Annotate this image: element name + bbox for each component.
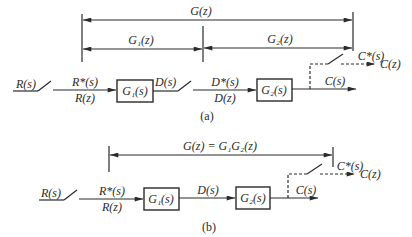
span-label-left: G₁(z) bbox=[128, 33, 154, 47]
span-label-total: G(z) bbox=[190, 4, 211, 18]
caption-a: (a) bbox=[200, 109, 213, 123]
caption-b: (b) bbox=[202, 220, 216, 234]
z-output-label-b: C(z) bbox=[360, 167, 381, 181]
block1-output-label: D(s) bbox=[154, 75, 176, 89]
output-label-b: C(s) bbox=[296, 183, 317, 197]
block-g1-label-b: G₁(s) bbox=[148, 192, 174, 206]
sampled-mid-bottom: D(z) bbox=[213, 91, 235, 105]
block-g1-label: G₁(s) bbox=[122, 84, 148, 98]
z-output-label: C(z) bbox=[380, 57, 401, 71]
fictitious-switch-b bbox=[307, 164, 322, 174]
mid-signal-label-b: D(s) bbox=[196, 183, 218, 197]
block-g2-label: G₂(s) bbox=[261, 83, 287, 97]
sampled-system-diagram: G(z) G₁(z) G₂(z) R(s) R*(s) R(z) G₁(s) D… bbox=[0, 0, 412, 237]
diagram-a: G(z) G₁(z) G₂(z) R(s) R*(s) R(z) G₁(s) D… bbox=[13, 4, 401, 123]
fictitious-switch bbox=[328, 54, 343, 64]
sampled-input-bottom: R(z) bbox=[74, 91, 95, 105]
input-label: R(s) bbox=[15, 77, 36, 91]
sampler-switch-b bbox=[64, 190, 77, 200]
span-label-right: G₂(z) bbox=[267, 32, 293, 46]
block-g2-label-b: G₂(s) bbox=[240, 191, 266, 205]
diagram-b: G(z) = G₁G₂(z) R(s) R*(s) R(z) G₁(s) D(s… bbox=[39, 139, 381, 234]
span-label-total-b: G(z) = G₁G₂(z) bbox=[183, 139, 257, 153]
output-label: C(s) bbox=[325, 74, 346, 88]
input-label-b: R(s) bbox=[40, 186, 61, 200]
sampled-input-top: R*(s) bbox=[71, 75, 98, 89]
sampler-switch-1 bbox=[38, 81, 51, 91]
sampled-input-top-b: R*(s) bbox=[98, 184, 125, 198]
sampled-mid-top: D*(s) bbox=[210, 75, 238, 89]
sampler-switch-2 bbox=[178, 81, 191, 91]
sampled-input-bottom-b: R(z) bbox=[101, 200, 122, 214]
